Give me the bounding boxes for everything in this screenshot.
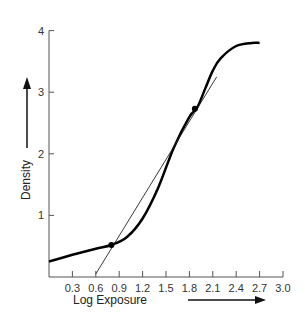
y-axis-title: Density <box>19 160 33 200</box>
x-tick-label: 2.1 <box>205 282 220 294</box>
tangent-point-marker <box>192 106 198 112</box>
x-tick-label: 2.7 <box>252 282 267 294</box>
y-tick-label: 1 <box>38 209 44 221</box>
x-tick-label: 3.0 <box>275 282 290 294</box>
y-tick-label: 2 <box>38 148 44 160</box>
x-axis-title: Log Exposure <box>73 293 147 307</box>
y-tick-label: 4 <box>38 25 44 37</box>
x-tick-label: 2.4 <box>229 282 244 294</box>
characteristic-curve-chart: 12340.30.60.91.21.51.82.12.42.73.0Log Ex… <box>0 0 305 326</box>
y-axis-arrow-head-icon <box>23 77 31 89</box>
x-axis-arrow-head-icon <box>255 296 266 304</box>
tangent-point-marker <box>108 242 114 248</box>
x-tick-label: 1.8 <box>182 282 197 294</box>
x-tick-label: 1.5 <box>158 282 173 294</box>
y-tick-label: 3 <box>38 86 44 98</box>
characteristic-curve <box>49 43 260 262</box>
